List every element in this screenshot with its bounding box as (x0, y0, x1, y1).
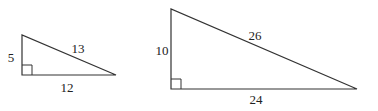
diagram: 5 12 13 10 24 26 (0, 0, 378, 111)
right-angle-marker (171, 79, 181, 89)
large-vertical-leg-label: 10 (156, 43, 169, 58)
small-hypotenuse-label: 13 (72, 41, 85, 56)
small-vertical-leg-label: 5 (8, 50, 15, 65)
right-angle-marker (22, 65, 32, 75)
small-triangle: 5 12 13 (8, 35, 116, 95)
large-horizontal-leg-label: 24 (250, 92, 264, 107)
large-triangle-shape (171, 9, 357, 89)
large-triangle: 10 24 26 (156, 9, 358, 107)
small-horizontal-leg-label: 12 (61, 80, 74, 95)
small-triangle-shape (22, 35, 116, 75)
large-hypotenuse-label: 26 (249, 28, 263, 43)
